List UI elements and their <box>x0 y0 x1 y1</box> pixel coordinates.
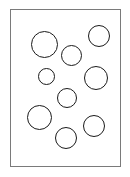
circle-top-right <box>88 25 110 47</box>
figure-canvas <box>0 0 130 177</box>
circle-left-small <box>38 68 55 85</box>
circle-lower-left-large <box>27 105 52 130</box>
circle-upper-middle <box>61 45 82 66</box>
circle-right-middle-large <box>84 66 108 90</box>
circle-lower-right <box>83 115 105 137</box>
circle-bottom-center <box>55 127 77 149</box>
circle-top-left-large <box>31 31 58 58</box>
circle-center <box>57 88 77 108</box>
